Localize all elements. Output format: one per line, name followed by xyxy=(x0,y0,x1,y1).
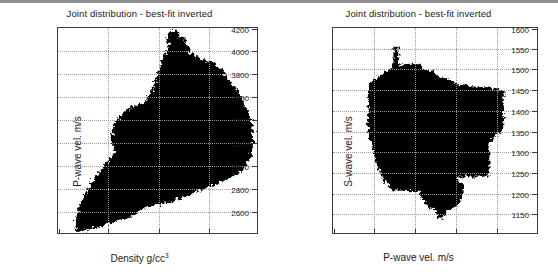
ytick-label-1350: 1350 xyxy=(511,128,529,137)
ytick-mark-1400: 1400 xyxy=(532,111,537,112)
ytick-mark-1350: 1350 xyxy=(532,132,537,133)
ytick-mark-3400: 3400 xyxy=(252,120,257,121)
gridline-y-2800 xyxy=(58,189,257,190)
gridline-y-1550 xyxy=(333,49,537,50)
xtick-mark-2p2: 2.2 xyxy=(159,229,160,233)
ytick-label-1600: 1600 xyxy=(511,27,529,35)
xtick-mark-2p3: 2.3 xyxy=(209,229,210,233)
x-axis-title-left-text: Density g/cc xyxy=(110,253,164,264)
gridline-y-1500 xyxy=(333,69,537,70)
ytick-label-1150: 1150 xyxy=(512,211,529,220)
gridline-y-4000 xyxy=(58,51,257,52)
gridline-x-4000 xyxy=(497,28,498,233)
gridline-y-1250 xyxy=(333,173,537,174)
ytick-label-4000: 4000 xyxy=(231,48,249,57)
gridline-y-3400 xyxy=(58,120,257,121)
ytick-mark-4000: 4000 xyxy=(252,51,257,52)
gridline-x-2p1 xyxy=(108,28,109,233)
x-axis-title-left-exponent: 3 xyxy=(165,252,169,259)
y-axis-title-right: S-wave vel. m/s xyxy=(343,97,354,207)
ytick-label-1100: 1100 xyxy=(512,231,529,235)
y-axis-title-left: P-wave vel. m/s xyxy=(72,97,83,207)
ytick-mark-1250: 1250 xyxy=(532,173,537,174)
ytick-label-4200: 4200 xyxy=(231,27,249,35)
ytick-label-2400: 2400 xyxy=(231,231,249,235)
scatter-cloud-left-svg xyxy=(58,28,257,233)
gridline-y-1200 xyxy=(333,194,537,195)
gridline-y-3200 xyxy=(58,143,257,144)
xtick-mark-2000: 2000 xyxy=(334,229,335,233)
ytick-label-3400: 3400 xyxy=(231,117,249,126)
ytick-mark-1500: 1500 xyxy=(532,69,537,70)
gridline-y-1400 xyxy=(333,111,537,112)
panel-density-vs-pwave: Joint distribution - best-fit inverted xyxy=(0,0,279,277)
ytick-label-2800: 2800 xyxy=(231,185,249,194)
ytick-mark-2600: 2600 xyxy=(252,212,257,213)
ytick-mark-3600: 3600 xyxy=(252,97,257,98)
ytick-mark-4200: 4200 xyxy=(252,29,257,30)
gridline-y-1350 xyxy=(333,132,537,133)
scatter-cloud-right xyxy=(333,28,537,233)
panel-title-right: Joint distribution - best-fit inverted xyxy=(279,8,558,19)
ytick-mark-1450: 1450 xyxy=(532,90,537,91)
xtick-mark-2p1: 2.1 xyxy=(108,229,109,233)
ytick-mark-1300: 1300 xyxy=(532,152,537,153)
ytick-label-1200: 1200 xyxy=(511,190,529,199)
plot-area-right: 1100 1150 1200 1250 1300 1350 1400 1450 … xyxy=(332,27,538,234)
xtick-mark-3000: 3000 xyxy=(415,229,416,233)
xtick-mark-3500: 3500 xyxy=(456,229,457,233)
gridline-y-1150 xyxy=(333,214,537,215)
panel-title-left: Joint distribution - best-fit inverted xyxy=(0,8,279,19)
x-axis-title-right: P-wave vel. m/s xyxy=(279,252,558,263)
ytick-mark-3200: 3200 xyxy=(252,143,257,144)
ytick-mark-3800: 3800 xyxy=(252,74,257,75)
figure-container: Joint distribution - best-fit inverted xyxy=(0,0,558,277)
ytick-label-3200: 3200 xyxy=(231,139,249,148)
xtick-mark-2p0: 2 xyxy=(59,229,60,233)
gridline-y-3800 xyxy=(58,74,257,75)
scatter-cloud-left xyxy=(58,28,257,233)
ytick-mark-1200: 1200 xyxy=(532,194,537,195)
ytick-label-1450: 1450 xyxy=(511,87,529,96)
xtick-mark-4000: 4000 xyxy=(497,229,498,233)
ytick-label-3000: 3000 xyxy=(231,162,249,171)
x-axis-title-left: Density g/cc3 xyxy=(0,252,279,264)
ytick-label-1250: 1250 xyxy=(511,169,529,178)
ytick-label-3600: 3600 xyxy=(231,94,249,103)
gridline-y-1300 xyxy=(333,152,537,153)
scatter-cloud-right-svg xyxy=(333,28,537,233)
xtick-mark-2500: 2500 xyxy=(374,229,375,233)
gridline-y-3000 xyxy=(58,166,257,167)
gridline-y-1450 xyxy=(333,90,537,91)
ytick-label-1550: 1550 xyxy=(511,45,529,54)
ytick-label-1500: 1500 xyxy=(511,66,529,75)
panel-pwave-vs-swave: Joint distribution - best-fit inverted xyxy=(279,0,558,277)
ytick-mark-3000: 3000 xyxy=(252,166,257,167)
ytick-label-3800: 3800 xyxy=(231,71,249,80)
gridline-x-2p2 xyxy=(159,28,160,233)
gridline-x-2500 xyxy=(374,28,375,233)
gridline-y-2600 xyxy=(58,212,257,213)
plot-area-left: 2400 2600 2800 3000 3200 3400 3600 3800 … xyxy=(57,27,258,234)
gridline-y-3600 xyxy=(58,97,257,98)
ytick-mark-1600: 1600 xyxy=(532,29,537,30)
gridline-x-3500 xyxy=(456,28,457,233)
ytick-mark-1550: 1550 xyxy=(532,49,537,50)
ytick-label-2600: 2600 xyxy=(231,208,249,217)
ytick-label-1400: 1400 xyxy=(511,107,529,116)
gridline-x-3000 xyxy=(415,28,416,233)
ytick-mark-1150: 1150 xyxy=(532,214,537,215)
gridline-x-2p3 xyxy=(209,28,210,233)
ytick-label-1300: 1300 xyxy=(511,149,529,158)
ytick-mark-2800: 2800 xyxy=(252,189,257,190)
